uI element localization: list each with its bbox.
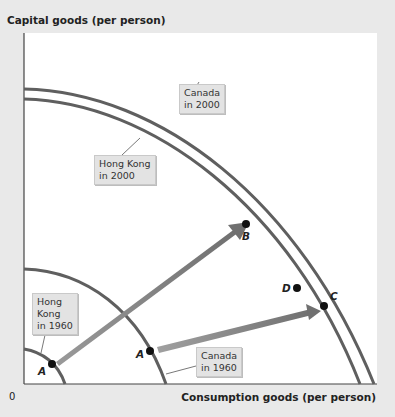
point-a-canada <box>146 347 154 355</box>
point-d-label: D <box>282 282 291 294</box>
label-hongkong-2000: Hong Kong in 2000 <box>94 155 156 185</box>
y-axis-label: Capital goods (per person) <box>7 14 165 26</box>
label-canada-2000: Canada in 2000 <box>179 84 225 114</box>
point-c <box>320 302 328 310</box>
point-a-hongkong-label: A <box>38 365 46 377</box>
point-a-hongkong <box>48 360 56 368</box>
point-c-label: C <box>330 290 338 302</box>
label-canada-1960: Canada in 1960 <box>196 347 242 377</box>
point-d <box>293 284 301 292</box>
origin-label: 0 <box>9 391 15 402</box>
point-b <box>242 220 250 228</box>
point-b-label: B <box>242 230 250 242</box>
point-a-canada-label: A <box>136 348 144 360</box>
ppf-diagram: Capital goods (per person) Consumption g… <box>0 0 395 417</box>
x-axis-label: Consumption goods (per person) <box>181 391 376 403</box>
label-hongkong-1960: Hong Kong in 1960 <box>32 293 78 335</box>
